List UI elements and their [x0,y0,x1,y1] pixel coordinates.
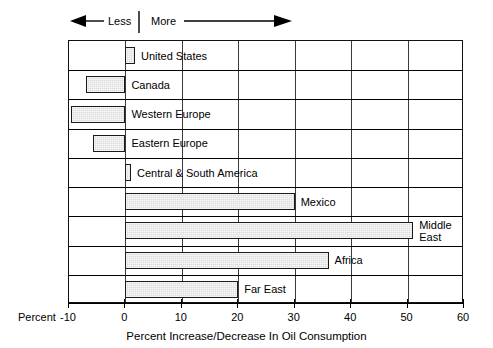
gridline-50 [408,41,409,302]
x-tick [124,299,125,308]
bar [125,222,413,239]
bar-label: Eastern Europe [131,137,207,149]
bar [125,281,238,298]
bar-label: Africa [335,254,363,266]
direction-indicator: Less More [68,10,296,34]
bar [125,193,294,210]
row-separator [69,158,462,159]
bar [125,47,135,64]
x-tick [463,299,464,308]
row-separator [69,275,462,276]
x-tick-label: 0 [121,311,127,323]
x-tick-label: 10 [175,311,187,323]
direction-arrows-graphic [68,10,296,34]
x-tick [294,299,295,308]
arrow-right-icon [184,15,292,27]
bar [125,252,328,269]
row-separator [69,246,462,247]
row-separator [69,70,462,71]
bar-chart-figure: Less More United StatesCanadaWestern Eur… [0,0,493,348]
bar [125,164,131,181]
x-tick-label: 50 [400,311,412,323]
plot-inner: United StatesCanadaWestern EuropeEastern… [69,41,462,302]
row-separator [69,216,462,217]
x-tick-label: 60 [457,311,469,323]
bar-label: Far East [244,283,286,295]
bar-label: Canada [131,79,170,91]
bar [86,76,126,93]
bar-label: Western Europe [131,108,210,120]
x-tick-label: -10 [60,311,76,323]
x-tick [237,299,238,308]
x-tick [407,299,408,308]
row-separator [69,99,462,100]
bar [71,106,126,123]
bar-label: United States [141,50,207,62]
x-axis: -100102030405060 [68,303,463,304]
x-tick-label: 40 [344,311,356,323]
arrow-left-icon [70,15,104,27]
x-tick [181,299,182,308]
bar-label: Mexico [301,196,336,208]
x-tick-label: 30 [288,311,300,323]
less-label: Less [108,15,131,27]
row-separator [69,187,462,188]
x-tick [68,299,69,308]
x-tick [350,299,351,308]
x-axis-title: Percent Increase/Decrease In Oil Consump… [0,330,493,343]
percent-word-label: Percent [18,311,56,323]
bar [93,135,126,152]
plot-area: United StatesCanadaWestern EuropeEastern… [68,40,463,303]
more-label: More [151,15,176,27]
bar-label: Middle East [419,219,465,243]
row-separator [69,129,462,130]
x-tick-label: 20 [231,311,243,323]
bar-label: Central & South America [137,167,257,179]
